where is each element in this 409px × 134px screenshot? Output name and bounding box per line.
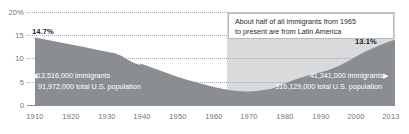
x-axis-tick-1990: 1990 — [312, 112, 330, 121]
data-label-1910-value: 14.7% — [32, 27, 54, 36]
latin-america-callout-box: About half of all immigrants from 1965 t… — [228, 13, 394, 39]
y-axis-tick-0: 0 — [0, 101, 24, 110]
right-arrow-icon: ▶ — [383, 72, 388, 79]
x-axis-tick-1950: 1950 — [169, 112, 187, 121]
x-axis-tick-1930: 1930 — [98, 112, 116, 121]
note-1910: ◀13,516,000 immigrants 91,972,000 total … — [32, 71, 141, 92]
y-axis-tick-5: 5 — [0, 78, 24, 87]
note-2013-population: 316,129,000 total U.S. population — [206, 82, 388, 93]
x-axis-tick-1910: 1910 — [26, 112, 44, 121]
callout-line-2: to present are from Latin America — [235, 27, 388, 37]
note-2013: 41,341,000 immigrants▶ 316,129,000 total… — [206, 71, 388, 92]
x-axis-tick-1940: 1940 — [133, 112, 151, 121]
x-axis-tick-1970: 1970 — [240, 112, 258, 121]
x-axis-tick-1980: 1980 — [276, 112, 294, 121]
note-1910-line-1: ◀13,516,000 immigrants — [32, 71, 141, 82]
x-axis-tick-1960: 1960 — [205, 112, 223, 121]
note-2013-line-1: 41,341,000 immigrants▶ — [206, 71, 388, 82]
callout-line-1: About half of all immigrants from 1965 — [235, 17, 388, 27]
y-axis: 20% 15 10 5 0 — [0, 0, 24, 134]
immigrant-share-area-chart: 20% 15 10 5 0 14.7% 13.1% About half of … — [0, 0, 409, 134]
x-axis: 1910 1920 1930 1940 1950 1960 1970 1980 … — [27, 112, 395, 126]
x-axis-tick-1920: 1920 — [62, 112, 80, 121]
y-axis-tick-20: 20% — [0, 8, 24, 17]
y-axis-tick-15: 15 — [0, 31, 24, 40]
note-2013-immigrants: 41,341,000 immigrants — [310, 71, 383, 80]
x-axis-tick-2013: 2013 — [382, 112, 400, 121]
y-axis-tick-10: 10 — [0, 54, 24, 63]
x-axis-tick-2000: 2000 — [347, 112, 365, 121]
note-1910-population: 91,972,000 total U.S. population — [32, 82, 141, 93]
note-1910-immigrants: 13,516,000 immigrants — [37, 71, 110, 80]
